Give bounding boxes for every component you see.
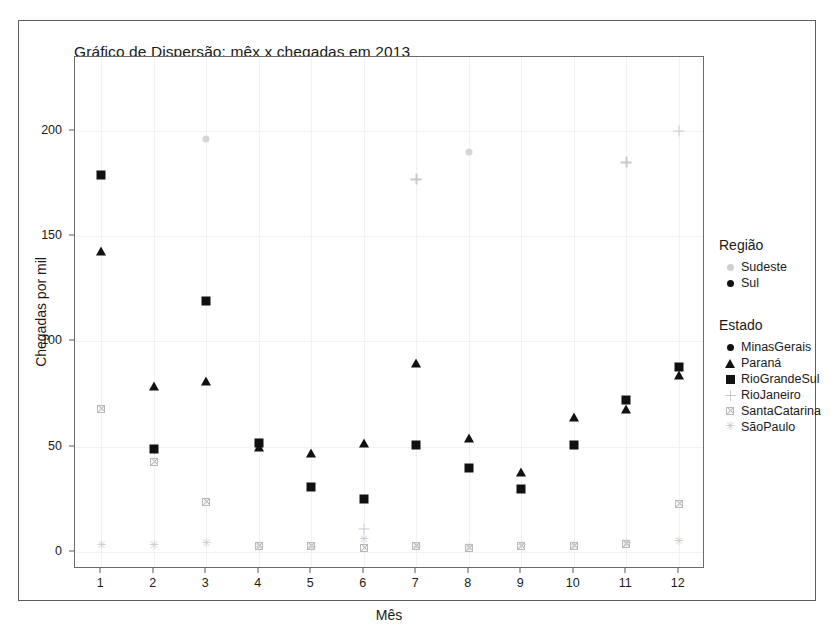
data-point-riograndesul <box>149 444 158 453</box>
data-point-riograndesul <box>569 440 578 449</box>
x-tick-label: 10 <box>566 576 580 590</box>
legend-item-region-0[interactable]: Sudeste <box>719 259 835 275</box>
legend-item-state-4[interactable]: SantaCatarina <box>719 403 835 419</box>
x-tick-label: 3 <box>202 576 209 590</box>
x-tick-mark <box>415 568 416 573</box>
data-point-riograndesul <box>202 297 211 306</box>
x-tick-mark <box>520 568 521 573</box>
data-point-sãopaulo: ✳ <box>201 539 211 549</box>
gridline-vertical <box>469 57 470 567</box>
x-tick-label: 1 <box>97 576 104 590</box>
legend-region-items: SudesteSul <box>719 259 835 291</box>
gridline-vertical <box>574 57 575 567</box>
gridline-vertical <box>154 57 155 567</box>
plot-panel[interactable]: ✳✳✳✳✳✳✳✳✳✳✳✳ <box>74 56 704 568</box>
y-tick-mark <box>69 235 74 236</box>
x-tick-mark <box>362 568 363 573</box>
square-icon <box>719 375 741 384</box>
data-point-paraná <box>254 442 264 451</box>
x-tick-mark <box>467 568 468 573</box>
data-point-paraná <box>201 377 211 386</box>
legend-item-state-2[interactable]: RioGrandeSul <box>719 371 835 387</box>
legend-item-state-1[interactable]: Paraná <box>719 355 835 371</box>
legend-item-region-1[interactable]: Sul <box>719 275 835 291</box>
x-tick-mark <box>152 568 153 573</box>
data-point-sãopaulo: ✳ <box>306 543 316 553</box>
y-tick-mark <box>69 340 74 341</box>
data-point-minasgerais <box>465 148 472 155</box>
x-tick-label: 12 <box>671 576 685 590</box>
x-tick-mark <box>100 568 101 573</box>
data-point-riograndesul <box>517 484 526 493</box>
data-point-paraná <box>306 449 316 458</box>
y-axis-title: Chegadas por mil <box>33 257 49 367</box>
circle-dark-icon <box>719 280 741 287</box>
x-tick-mark <box>310 568 311 573</box>
gridline-vertical <box>626 57 627 567</box>
data-point-sãopaulo: ✳ <box>359 535 369 545</box>
circle-light-icon <box>719 264 741 271</box>
legend-state-items: MinasGeraisParanáRioGrandeSulRioJaneiroS… <box>719 339 835 435</box>
data-point-paraná <box>96 246 106 255</box>
data-point-sãopaulo: ✳ <box>516 541 526 551</box>
gridline-vertical <box>416 57 417 567</box>
x-tick-label: 5 <box>307 576 314 590</box>
legend-label: Sul <box>741 276 759 290</box>
legend-title-state: Estado <box>719 317 835 333</box>
legend: Região SudesteSul Estado MinasGeraisPara… <box>719 237 835 461</box>
legend-label: SantaCatarina <box>741 404 821 418</box>
data-point-santacatarina <box>97 405 105 413</box>
plus-icon <box>719 390 741 401</box>
x-tick-label: 9 <box>517 576 524 590</box>
legend-label: Sudeste <box>741 260 787 274</box>
data-point-riojaneiro <box>411 174 422 185</box>
x-tick-label: 2 <box>149 576 156 590</box>
x-tick-label: 4 <box>254 576 261 590</box>
circle-icon <box>719 344 741 351</box>
data-point-paraná <box>149 381 159 390</box>
data-point-paraná <box>569 413 579 422</box>
y-tick-label: 50 <box>48 439 62 453</box>
data-point-santacatarina <box>150 458 158 466</box>
gridline-vertical <box>206 57 207 567</box>
data-point-sãopaulo: ✳ <box>411 543 421 553</box>
gridline-horizontal <box>75 447 703 448</box>
x-axis-title: Mês <box>376 607 402 623</box>
data-point-sãopaulo: ✳ <box>464 543 474 553</box>
y-tick-label: 150 <box>41 228 62 242</box>
legend-label: RioGrandeSul <box>741 372 820 386</box>
legend-group-state: Estado MinasGeraisParanáRioGrandeSulRioJ… <box>719 317 835 435</box>
x-tick-label: 6 <box>359 576 366 590</box>
x-tick-label: 8 <box>464 576 471 590</box>
y-tick-mark <box>69 445 74 446</box>
data-point-sãopaulo: ✳ <box>674 537 684 547</box>
triangle-icon <box>719 359 741 368</box>
y-tick-mark <box>69 129 74 130</box>
data-point-paraná <box>359 438 369 447</box>
legend-item-state-5[interactable]: ✳SãoPaulo <box>719 419 835 435</box>
gridline-horizontal <box>75 131 703 132</box>
x-tick-mark <box>677 568 678 573</box>
data-point-riojaneiro <box>358 523 369 534</box>
legend-label: Paraná <box>741 356 781 370</box>
gridline-vertical <box>259 57 260 567</box>
legend-title-region: Região <box>719 237 835 253</box>
data-point-sãopaulo: ✳ <box>254 543 264 553</box>
data-point-paraná <box>516 468 526 477</box>
data-point-paraná <box>674 371 684 380</box>
data-point-paraná <box>464 434 474 443</box>
gridline-vertical <box>364 57 365 567</box>
gridline-horizontal <box>75 236 703 237</box>
legend-group-region: Região SudesteSul <box>719 237 835 291</box>
data-point-riojaneiro <box>673 125 684 136</box>
x-tick-mark <box>257 568 258 573</box>
figure-frame: Gráfico de Dispersão: mêx x chegadas em … <box>18 20 816 601</box>
data-point-paraná <box>411 358 421 367</box>
legend-item-state-0[interactable]: MinasGerais <box>719 339 835 355</box>
asterisk-icon: ✳ <box>719 422 741 432</box>
data-point-riograndesul <box>359 495 368 504</box>
data-point-sãopaulo: ✳ <box>569 541 579 551</box>
data-point-paraná <box>621 404 631 413</box>
legend-item-state-3[interactable]: RioJaneiro <box>719 387 835 403</box>
data-point-riograndesul <box>412 440 421 449</box>
